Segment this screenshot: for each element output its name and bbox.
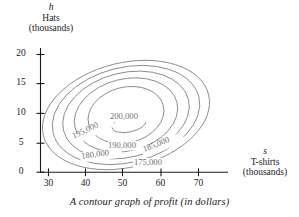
figure-caption: A contour graph of profit (in dollars) [0, 196, 299, 207]
contour-label-190000: 190,000 [108, 140, 136, 150]
x-tick-label-50: 50 [111, 178, 134, 188]
y-tick-label-10: 10 [10, 107, 32, 117]
contour-label-175000: 175,000 [134, 157, 162, 167]
x-tick-label-70: 70 [187, 178, 210, 188]
x-tick-label-60: 60 [149, 178, 172, 188]
x-tick-label-30: 30 [37, 178, 60, 188]
contour-label-200000: 200,000 [110, 111, 138, 121]
x-tick-label-40: 40 [74, 178, 97, 188]
y-tick-label-20: 20 [10, 48, 32, 58]
y-tick-label-5: 5 [10, 137, 32, 147]
contour-graph-figure: h Hats (thousands) s T-shirts (thousands… [0, 0, 299, 217]
y-tick-label-15: 15 [10, 77, 32, 87]
y-tick-label-0: 0 [10, 166, 32, 176]
